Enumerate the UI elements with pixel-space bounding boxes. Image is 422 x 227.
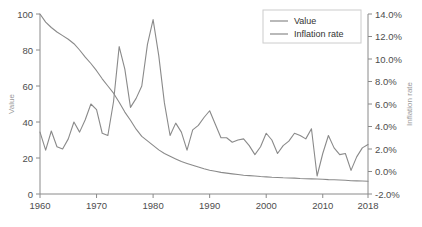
right-axis-tick-label: 6.0% xyxy=(375,99,397,110)
right-axis-tick-label: 10.0% xyxy=(375,54,402,65)
right-axis: -2.0%0.0%2.0%4.0%6.0%8.0%10.0%12.0%14.0%… xyxy=(368,9,414,200)
x-axis-tick-label: 2010 xyxy=(312,200,333,211)
left-axis-tick-label: 100 xyxy=(17,9,33,20)
x-axis-tick-label: 1960 xyxy=(29,200,50,211)
x-axis-tick-label: 2018 xyxy=(357,200,378,211)
right-axis-tick-label: 4.0% xyxy=(375,121,397,132)
right-axis-tick-label: 12.0% xyxy=(375,31,402,42)
right-axis-tick-label: 8.0% xyxy=(375,76,397,87)
x-axis-tick-label: 1990 xyxy=(199,200,220,211)
right-axis-title: Inflation rate xyxy=(405,81,414,126)
left-axis-tick-label: 80 xyxy=(22,45,33,56)
left-axis-title: Value xyxy=(7,94,16,114)
x-axis: 1960197019801990200020102018 xyxy=(29,194,378,211)
x-axis-tick-label: 2000 xyxy=(256,200,277,211)
legend-item-label: Inflation rate xyxy=(294,29,344,39)
x-axis-tick-label: 1980 xyxy=(143,200,164,211)
left-axis-tick-label: 0 xyxy=(28,189,33,200)
chart-legend[interactable]: ValueInflation rate xyxy=(263,10,361,43)
left-axis-tick-label: 60 xyxy=(22,81,33,92)
plot-area: 020406080100Value -2.0%0.0%2.0%4.0%6.0%8… xyxy=(7,9,414,212)
legend-item-label: Value xyxy=(294,16,316,26)
left-axis-tick-label: 20 xyxy=(22,153,33,164)
right-axis-tick-label: 14.0% xyxy=(375,9,402,20)
left-axis-tick-label: 40 xyxy=(22,117,33,128)
left-axis: 020406080100Value xyxy=(7,9,40,200)
chart-container: 020406080100Value -2.0%0.0%2.0%4.0%6.0%8… xyxy=(0,0,422,227)
dual-axis-line-chart: 020406080100Value -2.0%0.0%2.0%4.0%6.0%8… xyxy=(0,0,422,227)
right-axis-tick-label: 2.0% xyxy=(375,144,397,155)
right-axis-tick-label: 0.0% xyxy=(375,166,397,177)
x-axis-tick-label: 1970 xyxy=(86,200,107,211)
right-axis-tick-label: -2.0% xyxy=(375,189,400,200)
